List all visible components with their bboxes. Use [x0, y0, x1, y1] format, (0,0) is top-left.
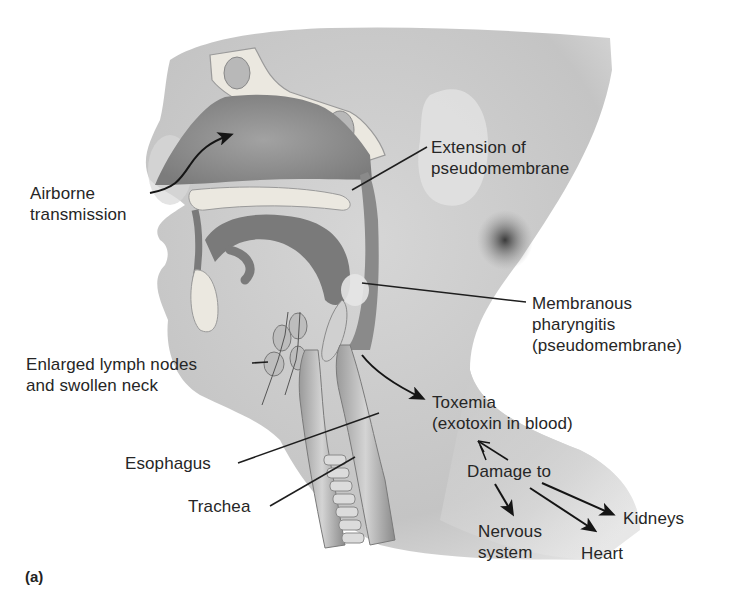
- label-toxemia-line1: Toxemia: [432, 392, 573, 413]
- label-esophagus: Esophagus: [125, 453, 211, 474]
- leader-lymph: [252, 362, 268, 363]
- diphtheria-diagram: Airborne transmission Extension of pseud…: [0, 0, 746, 599]
- label-heart: Heart: [581, 543, 623, 564]
- label-kidneys: Kidneys: [623, 508, 684, 529]
- label-membranous-line3: (pseudomembrane): [532, 335, 682, 356]
- panel-label: (a): [25, 568, 43, 585]
- label-airborne-transmission: Airborne transmission: [30, 183, 127, 225]
- label-trachea: Trachea: [188, 496, 250, 517]
- label-lymph-line2: and swollen neck: [26, 375, 197, 396]
- label-airborne-line2: transmission: [30, 204, 127, 225]
- label-membranous-line1: Membranous: [532, 293, 682, 314]
- label-damage-to: Damage to: [467, 461, 551, 482]
- label-extension-of-pseudomembrane: Extension of pseudomembrane: [431, 137, 569, 179]
- label-airborne-line1: Airborne: [30, 183, 127, 204]
- sinus-cavity-1: [224, 57, 250, 89]
- label-nervous-line1: Nervous: [478, 521, 542, 542]
- label-lymph-line1: Enlarged lymph nodes: [26, 354, 197, 375]
- label-toxemia-line2: (exotoxin in blood): [432, 413, 573, 434]
- label-enlarged-lymph-nodes: Enlarged lymph nodes and swollen neck: [26, 354, 197, 396]
- label-nervous-system: Nervous system: [478, 521, 542, 563]
- label-membranous-pharyngitis: Membranous pharyngitis (pseudomembrane): [532, 293, 682, 356]
- label-extension-line2: pseudomembrane: [431, 158, 569, 179]
- label-nervous-line2: system: [478, 542, 542, 563]
- label-toxemia: Toxemia (exotoxin in blood): [432, 392, 573, 434]
- swollen-neck-area: [477, 210, 533, 270]
- label-membranous-line2: pharyngitis: [532, 314, 682, 335]
- label-extension-line1: Extension of: [431, 137, 569, 158]
- pseudomembrane: [341, 274, 369, 306]
